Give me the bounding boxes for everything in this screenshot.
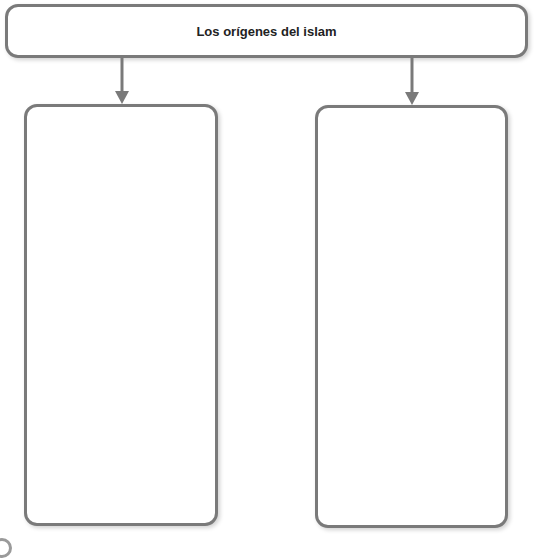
left-empty-box[interactable] <box>24 104 218 526</box>
diagram-title: Los orígenes del islam <box>196 24 336 39</box>
arrow-to-left-box <box>114 57 130 105</box>
partial-circle-icon <box>0 538 12 558</box>
root-node-box: Los orígenes del islam <box>5 4 528 58</box>
right-empty-box[interactable] <box>315 105 508 528</box>
arrow-to-right-box <box>404 57 420 106</box>
